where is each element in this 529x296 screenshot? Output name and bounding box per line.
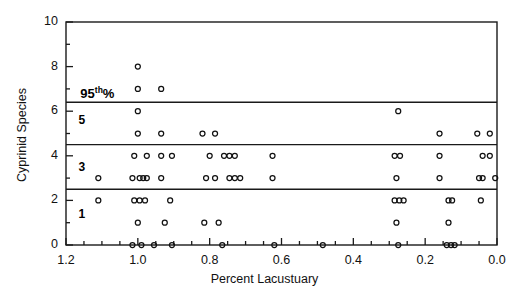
data-point xyxy=(394,220,399,225)
data-point xyxy=(437,131,442,136)
data-point xyxy=(232,176,237,181)
data-point xyxy=(159,153,164,158)
data-point xyxy=(130,176,135,181)
data-point xyxy=(478,198,483,203)
data-point xyxy=(437,176,442,181)
data-point xyxy=(132,198,137,203)
data-point xyxy=(143,198,148,203)
data-point xyxy=(135,64,140,69)
data-point xyxy=(168,198,173,203)
data-point xyxy=(437,153,442,158)
data-point xyxy=(202,220,207,225)
percentile-reference-label: 95th% xyxy=(80,85,114,101)
data-point xyxy=(227,176,232,181)
data-point xyxy=(96,198,101,203)
data-point xyxy=(137,198,142,203)
data-point xyxy=(159,131,164,136)
data-point xyxy=(207,153,212,158)
data-point xyxy=(227,153,232,158)
data-point xyxy=(135,220,140,225)
data-point xyxy=(159,176,164,181)
data-point xyxy=(204,176,209,181)
y-axis-tick-label: 6 xyxy=(32,103,58,117)
data-point xyxy=(162,220,167,225)
x-axis-title: Percent Lacustuary xyxy=(0,272,529,286)
data-point xyxy=(396,109,401,114)
y-axis-tick-label: 2 xyxy=(32,192,58,206)
data-point xyxy=(132,153,137,158)
data-point xyxy=(135,86,140,91)
x-axis-tick-label: 0.8 xyxy=(190,253,230,267)
zone-label-1: 1 xyxy=(79,207,86,221)
data-point xyxy=(200,131,205,136)
data-point xyxy=(169,153,174,158)
data-point xyxy=(96,176,101,181)
y-axis-tick-label: 4 xyxy=(32,148,58,162)
data-point xyxy=(144,176,149,181)
data-point xyxy=(487,153,492,158)
data-point xyxy=(216,220,221,225)
data-point xyxy=(238,176,243,181)
data-point xyxy=(475,131,480,136)
data-point xyxy=(392,153,397,158)
data-point xyxy=(446,220,451,225)
y-axis-title: Cyprinid Species xyxy=(15,65,29,205)
y-axis-tick-label: 8 xyxy=(32,59,58,73)
data-point xyxy=(213,176,218,181)
data-point xyxy=(480,176,485,181)
data-point xyxy=(480,153,485,158)
data-point xyxy=(232,153,237,158)
data-point xyxy=(487,131,492,136)
data-point xyxy=(144,153,149,158)
x-axis-tick-label: 1.0 xyxy=(118,253,158,267)
chart-figure xyxy=(0,0,529,296)
x-axis-tick-label: 0.4 xyxy=(333,253,373,267)
x-axis-tick-label: 0.2 xyxy=(405,253,445,267)
data-point xyxy=(270,153,275,158)
y-axis-tick-label: 10 xyxy=(32,14,58,28)
x-axis-tick-label: 0.6 xyxy=(262,253,302,267)
x-axis-tick-label: 0.0 xyxy=(477,253,517,267)
plot-frame xyxy=(66,22,497,245)
zone-label-3: 3 xyxy=(79,160,86,174)
data-point xyxy=(398,153,403,158)
data-point xyxy=(270,176,275,181)
data-point xyxy=(394,176,399,181)
zone-label-5: 5 xyxy=(79,113,86,127)
data-point xyxy=(135,109,140,114)
data-point xyxy=(135,131,140,136)
data-point xyxy=(159,86,164,91)
x-axis-tick-label: 1.2 xyxy=(46,253,86,267)
y-axis-tick-label: 0 xyxy=(32,237,58,251)
scatter-plot-canvas xyxy=(0,0,529,296)
data-point xyxy=(213,131,218,136)
data-point xyxy=(222,153,227,158)
data-point xyxy=(450,198,455,203)
